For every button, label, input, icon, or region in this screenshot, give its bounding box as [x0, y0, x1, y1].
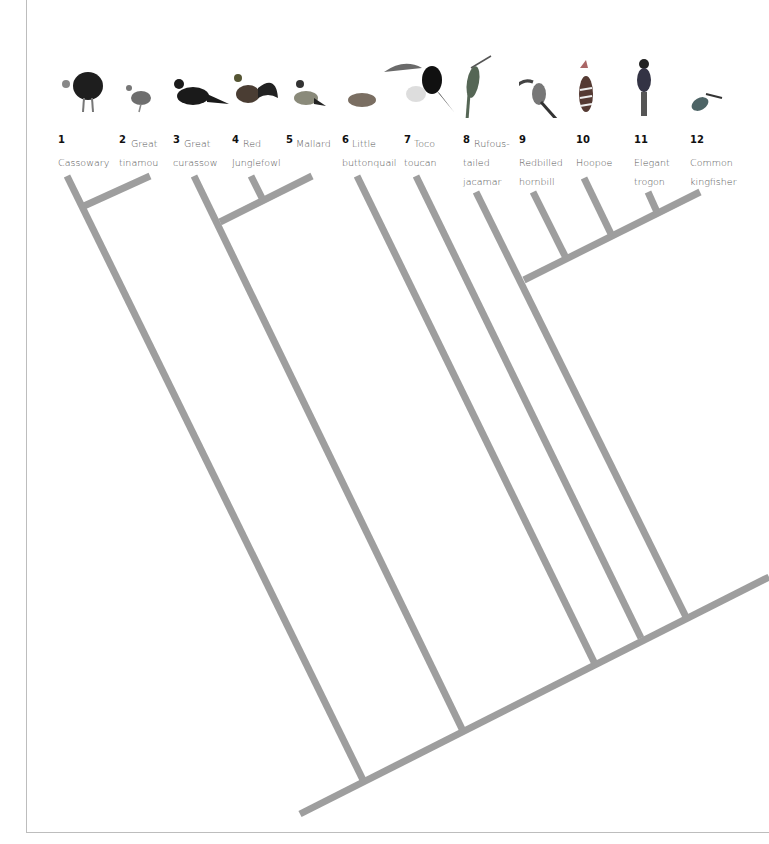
taxon-name: Red — [243, 134, 261, 153]
kingfisher-icon — [690, 54, 750, 118]
taxon-name-line2: curassow — [173, 153, 217, 172]
junglefowl-icon — [232, 54, 292, 118]
branch-curassow — [194, 176, 463, 731]
taxon-number: 11 — [634, 134, 648, 145]
taxon-name: Mallard — [296, 134, 331, 153]
taxon-number: 2 — [119, 134, 126, 145]
branch-junglefowl — [251, 176, 263, 200]
branch-jacamar — [476, 192, 686, 617]
taxon-number: 9 — [519, 134, 526, 145]
branch-hornbill — [533, 192, 567, 260]
trogon-icon — [634, 54, 694, 118]
branch-hoopoe — [584, 178, 612, 236]
taxon-name: Little — [352, 134, 376, 153]
mallard-icon — [286, 54, 346, 118]
branch-tinamou — [84, 176, 150, 206]
taxon-name: Great — [131, 134, 157, 153]
taxon-number: 8 — [463, 134, 470, 145]
taxon-name-line2: buttonquail — [342, 153, 397, 172]
taxon-name-line2: tinamou — [119, 153, 158, 172]
branch-toucan — [416, 176, 641, 638]
taxon-number: 10 — [576, 134, 590, 145]
taxon-name: Hoopoe — [576, 153, 612, 172]
taxon-name: Rufous- — [474, 134, 510, 153]
taxon-number: 1 — [58, 134, 65, 145]
taxon-name-line2: toucan — [404, 153, 437, 172]
taxon-number: 5 — [286, 134, 293, 145]
branch-cassowary — [67, 176, 364, 782]
curassow-icon — [173, 54, 233, 118]
taxon-name: Cassowary — [58, 153, 109, 172]
taxon-name: Toco — [414, 134, 435, 153]
toucan-icon — [374, 54, 454, 118]
branch-trogon — [648, 192, 657, 212]
cladogram-tree — [0, 0, 769, 844]
jacamar-icon — [463, 54, 523, 118]
tinamou-icon — [119, 54, 179, 118]
taxon-name: Redbilled — [519, 153, 563, 172]
taxon-name-line2: kingfisher — [690, 172, 737, 191]
cassowary-icon — [58, 54, 118, 118]
taxon-number: 4 — [232, 134, 239, 145]
branch-anseriformes — [220, 176, 312, 222]
taxon-number: 12 — [690, 134, 704, 145]
hornbill-icon — [519, 54, 579, 118]
taxon-name-line2: tailed — [463, 153, 490, 172]
taxon-name-line2: hornbill — [519, 172, 555, 191]
taxon-name-line3: jacamar — [463, 172, 502, 191]
taxon-name-line2: Junglefowl — [232, 153, 281, 172]
taxon-name: Elegant — [634, 153, 670, 172]
taxon-number: 6 — [342, 134, 349, 145]
taxon-name-line2: trogon — [634, 172, 665, 191]
branch-root-spine — [300, 577, 769, 814]
taxon-number: 3 — [173, 134, 180, 145]
taxon-number: 7 — [404, 134, 411, 145]
hoopoe-icon — [576, 54, 636, 118]
taxon-name: Common — [690, 153, 733, 172]
taxon-name: Great — [184, 134, 210, 153]
